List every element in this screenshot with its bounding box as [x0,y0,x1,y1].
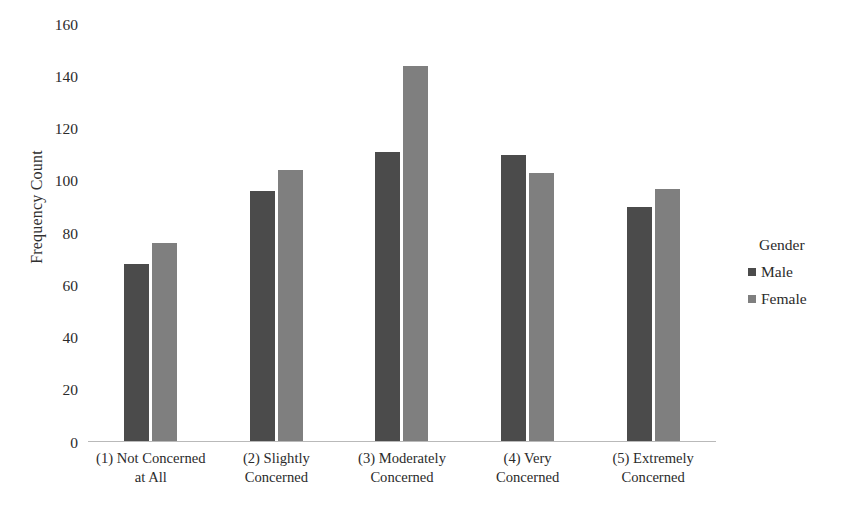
y-tick-label: 80 [32,226,78,241]
x-tick-label: (1) Not Concernedat All [79,449,223,487]
bar-female [278,170,303,442]
x-tick-label-line: (1) Not Concerned [79,449,223,468]
bar-group [465,24,591,442]
x-tick-label: (4) VeryConcerned [456,449,600,487]
bar-male [375,152,400,442]
x-tick-label-line: Concerned [205,468,349,487]
legend-item-label: Female [761,290,807,308]
bar-male [501,155,526,442]
x-tick-label: (3) ModeratelyConcerned [330,449,474,487]
y-tick-label: 120 [32,121,78,136]
y-tick-label: 20 [32,382,78,397]
legend-item-label: Male [761,263,793,281]
x-tick-label-line: Concerned [330,468,474,487]
bar-group [214,24,340,442]
y-tick-label: 160 [32,17,78,32]
y-tick-label: 0 [32,435,78,450]
legend-items: MaleFemale [748,263,840,308]
legend: Gender MaleFemale [748,236,840,317]
x-axis-tick-labels: (1) Not Concernedat All(2) SlightlyConce… [88,449,716,505]
legend-title: Gender [748,236,840,254]
x-tick-label-line: (2) Slightly [205,449,349,468]
bar-female [529,173,554,442]
x-tick-label: (5) ExtremelyConcerned [581,449,725,487]
x-tick-label: (2) SlightlyConcerned [205,449,349,487]
bar-male [250,191,275,442]
y-tick-label: 140 [32,69,78,84]
bar-chart-figure: Frequency Count 160140120100806040200 (1… [0,0,841,511]
legend-swatch-icon [748,268,756,276]
legend-swatch-icon [748,295,756,303]
x-tick-label-line: at All [79,468,223,487]
bar-female [655,189,680,442]
x-tick-label-line: Concerned [581,468,725,487]
bar-group [590,24,716,442]
bar-female [152,243,177,442]
y-tick-label: 40 [32,330,78,345]
legend-item-female[interactable]: Female [748,290,840,308]
x-axis-line [88,441,716,442]
bar-group [88,24,214,442]
bar-male [124,264,149,442]
y-tick-label: 100 [32,173,78,188]
y-tick-label: 60 [32,278,78,293]
plot-area [88,24,716,442]
x-tick-label-line: (3) Moderately [330,449,474,468]
bar-female [403,66,428,442]
bar-male [627,207,652,442]
y-axis-tick-labels: 160140120100806040200 [32,0,78,511]
legend-item-male[interactable]: Male [748,263,840,281]
bar-group [339,24,465,442]
x-tick-label-line: (5) Extremely [581,449,725,468]
x-tick-label-line: (4) Very [456,449,600,468]
x-tick-label-line: Concerned [456,468,600,487]
